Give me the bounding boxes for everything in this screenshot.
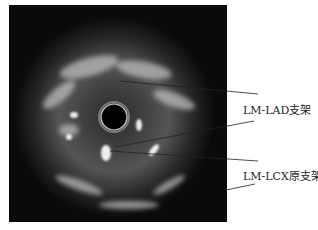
label-lm-lad-stent: LM-LAD支架 <box>243 101 311 117</box>
pointer-line-lcx-1 <box>110 151 258 161</box>
label-lm-lcx-original-stent: LM-LCX原支架 <box>243 167 318 183</box>
pointer-line-lad-2 <box>115 121 254 147</box>
pointer-line-lad-1 <box>120 81 258 94</box>
pointer-line-lcx-2 <box>226 184 255 190</box>
